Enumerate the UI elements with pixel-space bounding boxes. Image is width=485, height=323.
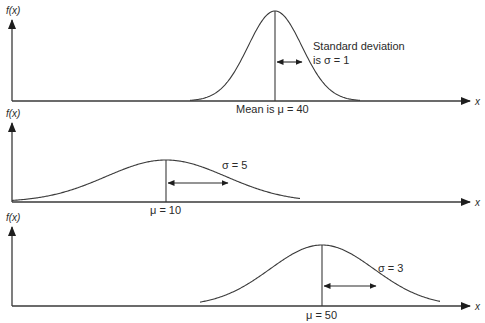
- normal-distributions-diagram: f(x) x Standard deviation is σ = 1 Mean …: [0, 0, 485, 323]
- distribution-curve: [200, 245, 440, 302]
- std-deviation-label: σ = 3: [378, 262, 403, 274]
- mean-label: μ = 50: [306, 309, 337, 321]
- mean-label: μ = 10: [150, 204, 181, 216]
- x-axis-label: x: [474, 301, 481, 312]
- x-axis-label: x: [474, 197, 481, 208]
- distribution-curve: [12, 160, 300, 200]
- y-axis-label: f(x): [6, 5, 20, 16]
- y-axis-label: f(x): [6, 108, 20, 119]
- x-axis-label: x: [474, 96, 481, 107]
- panel-3: f(x) x σ = 3 μ = 50: [6, 212, 481, 321]
- mean-label: Mean is μ = 40: [236, 103, 309, 115]
- panel-1: f(x) x Standard deviation is σ = 1 Mean …: [6, 5, 481, 115]
- y-axis-label: f(x): [6, 212, 20, 223]
- std-deviation-label: Standard deviation: [313, 40, 405, 52]
- std-deviation-value: is σ = 1: [313, 54, 349, 66]
- std-deviation-label: σ = 5: [222, 159, 247, 171]
- panel-2: f(x) x σ = 5 μ = 10: [6, 108, 481, 216]
